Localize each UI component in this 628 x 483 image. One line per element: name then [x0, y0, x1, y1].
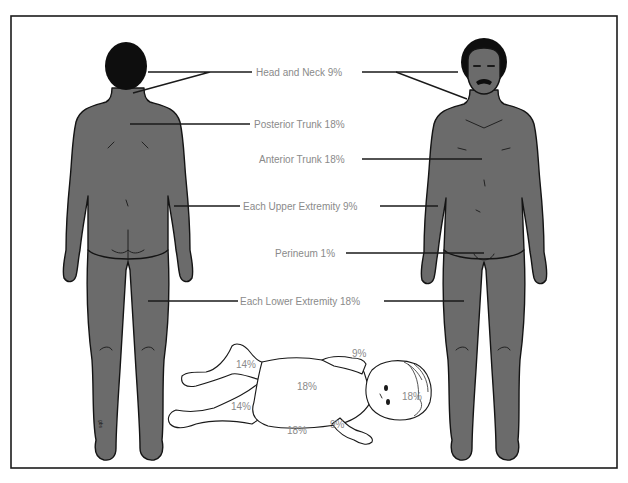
infant-label-arm-lower: 9% — [330, 419, 345, 430]
anterior-face — [468, 48, 500, 94]
artist-signature: gbs — [98, 420, 104, 429]
label-lower-extremity: Each Lower Extremity 18% — [240, 296, 360, 307]
rule-of-nines-diagram: gbs — [0, 0, 628, 483]
infant-label-trunk-back: 18% — [287, 425, 307, 436]
infant-label-upper-leg: 14% — [236, 359, 256, 370]
infant-label-arm-upper: 9% — [352, 348, 367, 359]
posterior-head-hair — [105, 42, 147, 90]
infant-label-lower-leg: 14% — [231, 401, 251, 412]
infant-label-head: 18% — [402, 391, 422, 402]
label-perineum: Perineum 1% — [275, 248, 335, 259]
label-anterior-trunk: Anterior Trunk 18% — [259, 154, 345, 165]
infant-label-trunk-front: 18% — [297, 381, 317, 392]
label-posterior-trunk: Posterior Trunk 18% — [254, 119, 345, 130]
label-head-neck: Head and Neck 9% — [256, 67, 342, 78]
label-upper-extremity: Each Upper Extremity 9% — [243, 201, 358, 212]
